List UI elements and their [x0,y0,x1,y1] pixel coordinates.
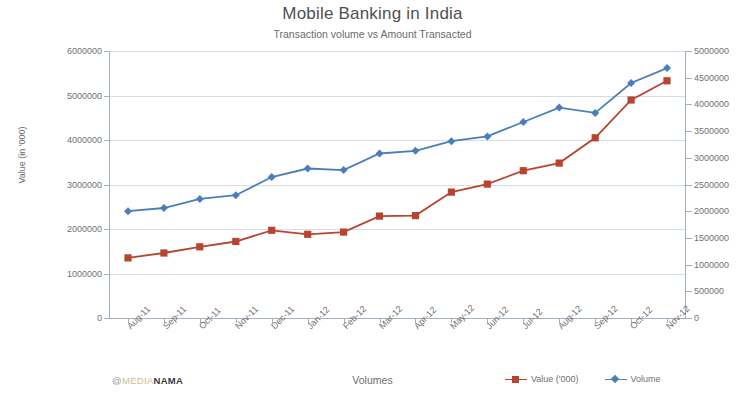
chart-subtitle: Transaction volume vs Amount Transacted [0,28,745,40]
gridline [110,229,685,230]
y-axis-right-tick-label: 1000000 [694,260,745,270]
series-marker [663,77,670,84]
series-marker [412,212,419,219]
series-marker [232,191,240,199]
legend-label: Value ('000) [531,374,579,384]
y-axis-right-tick [686,265,692,266]
legend-diamond-marker-icon [605,375,627,384]
series-marker [556,160,563,167]
series-marker [196,243,203,250]
y-axis-right-tick-label: 0 [694,313,745,323]
series-marker [124,207,132,215]
y-axis-left-tick-label: 2000000 [40,224,102,234]
series-marker [447,137,455,145]
series-marker [160,249,167,256]
series-marker [160,204,168,212]
y-axis-left-tick [104,229,110,230]
y-axis-left-tick [104,185,110,186]
series-marker [628,96,635,103]
y-axis-right-tick [686,185,692,186]
series-marker [376,213,383,220]
gridline [110,96,685,97]
y-axis-right-tick-label: 500000 [694,286,745,296]
series-marker [627,79,635,87]
series-marker [411,147,419,155]
series-marker [124,254,131,261]
series-line [128,81,667,258]
y-axis-right-tick [686,78,692,79]
watermark: @MEDIANAMA [112,375,183,386]
series-marker [555,104,563,112]
chart-title: Mobile Banking in India [0,4,745,24]
y-axis-left-tick-label: 1000000 [40,269,102,279]
y-axis-label: Value (in '000) [17,95,27,215]
y-axis-left-tick-label: 3000000 [40,180,102,190]
y-axis-left-tick [104,51,110,52]
series-marker [232,238,239,245]
y-axis-right-tick [686,104,692,105]
series-marker [304,231,311,238]
y-axis-left-tick [104,318,110,319]
series-marker [520,167,527,174]
legend-item[interactable]: Volume [605,374,661,384]
y-axis-left-tick-label: 0 [40,313,102,323]
y-axis-right-tick-label: 5000000 [694,46,745,56]
watermark-at: @ [112,375,122,386]
legend-item[interactable]: Value ('000) [505,374,579,384]
gridline [110,274,685,275]
y-axis-right-tick [686,131,692,132]
y-axis-left-tick [104,274,110,275]
series-marker [340,166,348,174]
legend-label: Volume [631,374,661,384]
series-marker [304,164,312,172]
gridline [110,140,685,141]
y-axis-left-tick [104,140,110,141]
y-axis-right-tick-label: 2500000 [694,180,745,190]
series-marker [268,173,276,181]
y-axis-right-tick [686,291,692,292]
watermark-media: MEDIA [122,375,154,386]
gridline [110,51,685,52]
gridline [110,185,685,186]
series-marker [663,64,671,72]
series-plot [0,0,745,394]
watermark-nama: NAMA [154,375,184,386]
series-marker [376,150,384,158]
y-axis-right-tick [686,238,692,239]
chart-container: Mobile Banking in India Transaction volu… [0,0,745,394]
y-axis-right-tick-label: 4500000 [694,73,745,83]
y-axis-right-tick [686,158,692,159]
y-axis-left-tick-label: 5000000 [40,91,102,101]
y-axis-right-tick-label: 4000000 [694,99,745,109]
y-axis-right-tick [686,211,692,212]
y-axis-right-tick [686,51,692,52]
y-axis-left-tick [104,96,110,97]
chart-legend: Value ('000)Volume [505,374,661,384]
series-marker [519,118,527,126]
x-axis-tick-label: May-12 [448,303,476,331]
y-axis-left-tick-label: 6000000 [40,46,102,56]
series-marker [591,109,599,117]
legend-square-marker-icon [505,375,527,384]
y-axis-right-tick-label: 3000000 [694,153,745,163]
series-marker [268,227,275,234]
series-marker [448,189,455,196]
y-axis-left-tick-label: 4000000 [40,135,102,145]
y-axis-right-tick-label: 3500000 [694,126,745,136]
series-marker [196,195,204,203]
y-axis-right-tick-label: 2000000 [694,206,745,216]
y-axis-right-tick [686,318,692,319]
y-axis-right-tick-label: 1500000 [694,233,745,243]
